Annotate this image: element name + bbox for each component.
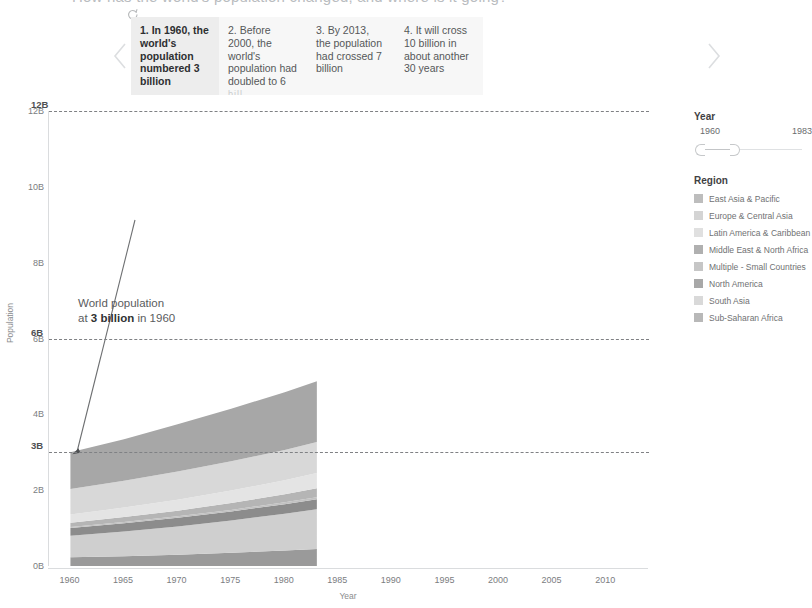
legend-item-label: Sub-Saharan Africa <box>709 313 783 323</box>
legend-swatch <box>694 296 703 305</box>
legend-swatch <box>694 313 703 322</box>
legend-item[interactable]: South Asia <box>694 292 812 309</box>
x-axis: Year 19601965197019751980198519901995200… <box>48 568 648 608</box>
x-axis-title: Year <box>48 591 648 601</box>
year-range-min-label: 1960 <box>700 126 720 136</box>
x-tick-label: 2010 <box>595 575 615 585</box>
legend-item-label: Middle East & North Africa <box>709 245 808 255</box>
story-point-1-label: 1. In 1960, the world's population numbe… <box>140 24 209 87</box>
legend-item[interactable]: North America <box>694 275 812 292</box>
visualization-body: Population 0B2B4B6B8B10B12B World popula… <box>0 103 812 608</box>
annotation-line-2-post: in 1960 <box>134 312 175 324</box>
legend-item-label: Latin America & Caribbean <box>709 228 810 238</box>
year-slider-handle-max[interactable] <box>730 144 740 156</box>
story-title: How has the world's population changed, … <box>72 0 508 5</box>
x-tick-label: 2005 <box>542 575 562 585</box>
story-point-3[interactable]: 3. By 2013, the population had crossed 7… <box>307 17 395 95</box>
story-points-list: 1. In 1960, the world's population numbe… <box>131 17 483 95</box>
year-range-labels: 1960 1983 <box>694 126 812 140</box>
story-point-2[interactable]: 2. Before 2000, the world's population h… <box>219 17 307 95</box>
y-tick-label: 4B <box>33 409 44 419</box>
y-tick-label: 8B <box>33 258 44 268</box>
legend-swatch <box>694 194 703 203</box>
legend-item-label: Multiple - Small Countries <box>709 262 806 272</box>
region-legend-heading: Region <box>694 175 812 186</box>
x-tick-label: 1995 <box>434 575 454 585</box>
year-range-slider[interactable] <box>694 143 806 157</box>
story-point-2-truncated: bill <box>228 88 298 95</box>
story-point-4-label: 4. It will cross 10 billion in about ano… <box>404 24 469 74</box>
x-tick-label: 1975 <box>220 575 240 585</box>
region-legend: Region East Asia & PacificEurope & Centr… <box>694 175 812 326</box>
legend-item-label: North America <box>709 279 763 289</box>
x-tick-label: 1985 <box>327 575 347 585</box>
reference-line-label: 12B <box>31 99 48 111</box>
year-range-max-label: 1983 <box>792 126 812 136</box>
x-tick-label: 2000 <box>488 575 508 585</box>
year-filter: Year 1960 1983 <box>694 111 812 157</box>
legend-item[interactable]: Multiple - Small Countries <box>694 258 812 275</box>
story-point-3-label: 3. By 2013, the population had crossed 7… <box>316 24 382 74</box>
reference-line <box>49 452 649 453</box>
reference-line <box>49 339 649 340</box>
y-tick-label: 2B <box>33 485 44 495</box>
y-tick-label: 0B <box>33 561 44 571</box>
story-title-bar: How has the world's population changed, … <box>0 0 812 7</box>
x-tick-label: 1965 <box>113 575 133 585</box>
y-axis-title: Population <box>5 288 15 358</box>
x-tick-label: 1970 <box>167 575 187 585</box>
x-tick-label: 1990 <box>381 575 401 585</box>
legend-item[interactable]: Europe & Central Asia <box>694 207 812 224</box>
legend-swatch <box>694 228 703 237</box>
story-point-2-label: 2. Before 2000, the world's population h… <box>228 24 297 87</box>
annotation-line-2-pre: at <box>78 312 91 324</box>
legend-swatch <box>694 211 703 220</box>
year-filter-heading: Year <box>694 111 812 122</box>
chevron-right-icon <box>700 39 726 73</box>
story-point-4[interactable]: 4. It will cross 10 billion in about ano… <box>395 17 483 95</box>
legend-item[interactable]: Sub-Saharan Africa <box>694 309 812 326</box>
y-tick-label: 10B <box>28 182 44 192</box>
annotation-line-2-bold: 3 billion <box>91 312 134 324</box>
story-point-1[interactable]: 1. In 1960, the world's population numbe… <box>131 17 219 95</box>
legend-item-label: South Asia <box>709 296 750 306</box>
year-slider-handle-min[interactable] <box>695 144 705 156</box>
legend-item-label: Europe & Central Asia <box>709 211 793 221</box>
plot-area[interactable]: World population at 3 billion in 1960 12… <box>48 111 648 566</box>
story-next-button[interactable] <box>700 39 726 73</box>
story-navigation: 1. In 1960, the world's population numbe… <box>0 17 812 97</box>
right-panel: Year 1960 1983 Region East Asia & Pacifi… <box>694 111 812 326</box>
reference-line-label: 6B <box>31 327 43 339</box>
legend-item-label: East Asia & Pacific <box>709 194 780 204</box>
annotation-line-1: World population <box>78 297 164 309</box>
reference-line-label: 3B <box>31 440 43 452</box>
annotation-label: World population at 3 billion in 1960 <box>78 296 175 326</box>
y-axis-ticks: 0B2B4B6B8B10B12B <box>18 103 44 583</box>
legend-item[interactable]: East Asia & Pacific <box>694 190 812 207</box>
x-tick-label: 1980 <box>274 575 294 585</box>
legend-swatch <box>694 262 703 271</box>
legend-item[interactable]: Latin America & Caribbean <box>694 224 812 241</box>
reference-line <box>49 111 649 112</box>
x-tick-label: 1960 <box>59 575 79 585</box>
legend-item[interactable]: Middle East & North Africa <box>694 241 812 258</box>
region-legend-items: East Asia & PacificEurope & Central Asia… <box>694 190 812 326</box>
legend-swatch <box>694 279 703 288</box>
legend-swatch <box>694 245 703 254</box>
